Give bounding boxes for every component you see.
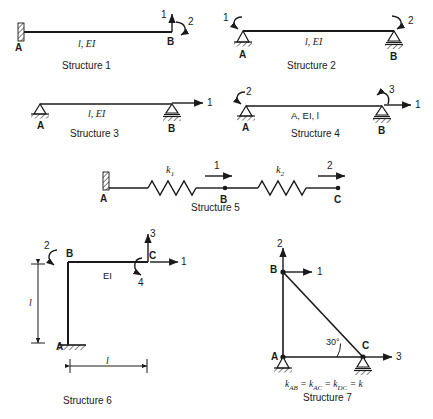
spring-k1-subscript: 1 (171, 170, 175, 178)
structure-3-member-label: l, EI (88, 108, 105, 119)
structure-2-node-b-label: B (390, 51, 397, 62)
structure-5-dof-2-label: 2 (327, 160, 333, 171)
stiffness-eq2: = (325, 379, 331, 389)
stiffness-sub1: AB (289, 384, 298, 392)
figure-sheet: A B l, EI 1 2 Structure 1 A B l, EI 1 2 … (0, 0, 433, 419)
structure-6-dim-vertical-label: l (29, 297, 32, 308)
structure-1-caption: Structure 1 (62, 60, 111, 71)
structure-4-caption: Structure 4 (291, 128, 340, 139)
stiffness-eq3: = (350, 379, 356, 389)
structure-3-caption: Structure 3 (70, 128, 119, 139)
structure-7-dof-1-label: 1 (317, 266, 323, 277)
structure-1-node-b-label: B (167, 36, 174, 47)
stiffness-eq1: = (300, 379, 306, 389)
structure-5-node-c-label: C (334, 194, 341, 205)
structure-2-node-a-label: A (239, 49, 246, 60)
structure-4-node-b-label: B (378, 125, 385, 136)
structure-3-node-b-label: B (168, 123, 175, 134)
structure-2-dof-2-label: 2 (408, 15, 414, 26)
structure-7-angle-label: 30° (326, 337, 340, 347)
structure-5-spring-k1-label: k1 (166, 164, 174, 178)
structure-6-caption: Structure 6 (63, 395, 112, 406)
structure-7-dof-2-label: 2 (277, 238, 283, 249)
structure-1-dof-2-label: 2 (188, 16, 194, 27)
structure-7-graphics (274, 248, 392, 375)
structure-4-node-a-label: A (242, 122, 249, 133)
structure-7-node-a-label: A (271, 351, 278, 362)
structure-3-graphics (31, 103, 203, 121)
structure-2-member-label: l, EI (305, 36, 322, 47)
spring-k2-subscript: 2 (281, 170, 285, 178)
structure-4-dof-1-label: 1 (415, 99, 421, 110)
structure-6-node-a-label: A (56, 341, 63, 352)
stiffness-rhs: k (358, 379, 362, 389)
stiffness-sub3: DC (338, 384, 348, 392)
structure-6-dof-3-label: 3 (150, 228, 156, 239)
structure-4-dof-3-label: 3 (389, 84, 395, 95)
structure-5-caption: Structure 5 (191, 202, 240, 213)
structure-6-dim-horizontal-label: l (106, 355, 109, 366)
structure-6-node-b-label: B (66, 248, 73, 259)
structure-5-graphics (103, 172, 345, 195)
structure-5-node-a-label: A (100, 193, 107, 204)
structure-6-member-label: EI (103, 270, 112, 281)
structure-3-node-a-label: A (37, 120, 44, 131)
structure-4-dof-2-label: 2 (246, 86, 252, 97)
structure-6-dof-4-label: 4 (138, 277, 144, 288)
structure-2-dof-1-label: 1 (223, 12, 229, 23)
structure-6-dof-2-label: 2 (44, 240, 50, 251)
structure-5-dof-1-label: 1 (214, 160, 220, 171)
structure-7-node-b-label: B (270, 264, 277, 275)
structure-7-dof-3-label: 3 (396, 351, 402, 362)
structure-1-member-label: l, EI (78, 38, 95, 49)
structure-1-dof-1-label: 1 (161, 9, 167, 20)
structure-2-caption: Structure 2 (287, 60, 336, 71)
structure-7-stiffness-note: kAB = kAC = kDC = k (285, 379, 363, 392)
structure-3-dof-1-label: 1 (207, 97, 213, 108)
structure-4-graphics (237, 92, 411, 123)
structure-5-spring-k2-label: k2 (276, 164, 284, 178)
structure-7-caption: Structure 7 (303, 392, 352, 403)
structure-6-dof-1-label: 1 (181, 256, 187, 267)
structure-4-member-label: A, EI, l (291, 110, 319, 121)
structure-1-node-a-label: A (15, 42, 22, 53)
structure-7-node-c-label: C (362, 340, 369, 351)
stiffness-sub2: AC (313, 384, 322, 392)
structure-6-node-c-label: C (149, 250, 156, 261)
